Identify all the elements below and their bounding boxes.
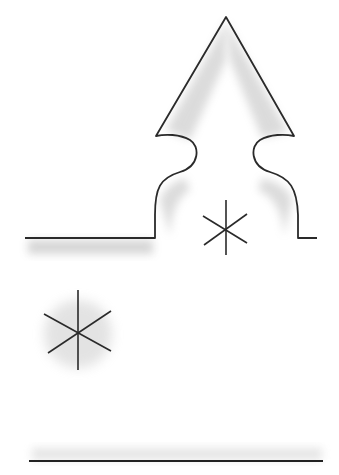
pencil-shading [28, 22, 322, 460]
small-asterisk-icon [203, 200, 247, 255]
sketch-canvas [0, 0, 339, 475]
